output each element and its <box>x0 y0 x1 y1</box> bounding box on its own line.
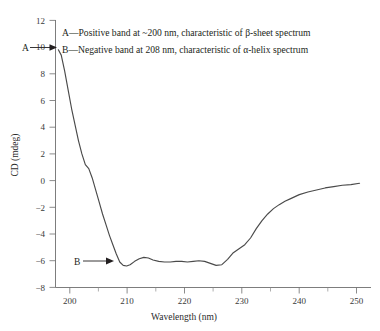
x-tick-label: 230 <box>235 296 249 306</box>
y-tick-label: −4 <box>35 229 45 239</box>
x-tick-label: 250 <box>350 296 364 306</box>
chart-svg: 12 10 8 6 4 2 0 −2 −4 −6 −8 200 <box>0 0 380 331</box>
y-tick-label: 2 <box>41 149 46 159</box>
marker-b-group: B <box>74 257 114 267</box>
y-tick-label: −6 <box>35 256 45 266</box>
x-tick-label: 200 <box>63 296 77 306</box>
x-axis-title: Wavelength (nm) <box>151 312 217 323</box>
y-tick-label: 6 <box>41 96 46 106</box>
x-axis-ticks: 200 210 220 230 240 250 <box>63 288 364 307</box>
y-tick-label: 12 <box>36 16 45 26</box>
y-tick-label: −2 <box>35 203 45 213</box>
y-tick-label: 4 <box>41 122 46 132</box>
y-tick-label: 8 <box>41 69 46 79</box>
x-tick-label: 210 <box>120 296 134 306</box>
note-b-text: B—Negative band at 208 nm, characteristi… <box>62 44 309 55</box>
y-tick-label: 0 <box>41 176 46 186</box>
marker-b-arrowhead <box>106 258 114 265</box>
cd-spectrum-figure: 12 10 8 6 4 2 0 −2 −4 −6 −8 200 <box>0 0 380 331</box>
x-tick-label: 240 <box>292 296 306 306</box>
y-tick-label: −8 <box>35 283 45 293</box>
y-axis-ticks: 12 10 8 6 4 2 0 −2 −4 −6 −8 <box>35 16 55 293</box>
y-axis-title: CD (mdeg) <box>10 133 21 176</box>
spectrum-curve <box>58 50 359 266</box>
marker-b-label: B <box>74 257 80 267</box>
axes-group <box>56 20 372 288</box>
marker-a-label: A <box>22 43 29 53</box>
x-tick-label: 220 <box>178 296 192 306</box>
note-a-text: A—Positive band at ~200 nm, characterist… <box>62 27 311 38</box>
